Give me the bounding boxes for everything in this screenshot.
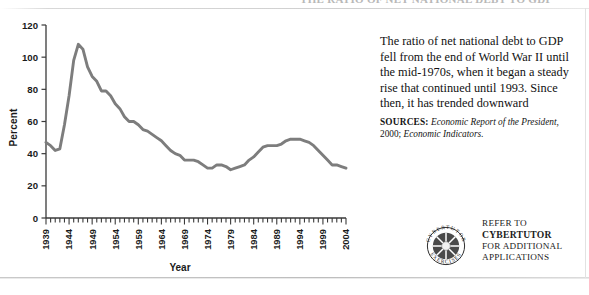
y-tick-label: 80 [27,84,38,95]
y-tick-label: 120 [22,20,38,31]
y-axis-label: Percent [8,93,19,163]
x-tick-group [46,218,346,225]
badge-line-1: REFER TO [482,218,586,229]
y-tick-label: 100 [22,52,38,63]
x-tick-label: 1989 [271,229,282,250]
x-ticklabel-group: 1939194419491954195919641969197419791984… [40,228,351,250]
cybertutor-logo-icon: CYBERTUTOR EXERCISES [420,220,472,272]
badge-line-2: CYBERTUTOR [482,229,586,240]
sources-work-2: Economic Indicators. [404,129,484,139]
sources-year: 2000; [380,129,401,139]
x-tick-label: 1964 [156,228,167,250]
series-line-net-debt [46,44,346,169]
bottom-divider-shadow [0,278,589,279]
sources-label: SOURCES: [380,117,429,127]
y-tick-label: 0 [33,213,38,224]
chart-axes [46,25,346,218]
x-tick-label: 1994 [294,228,305,250]
caption-text: The ratio of net national debt to GDP fe… [380,34,580,112]
chart-canvas: 020406080100120 193919441949195419591964… [0,14,375,279]
cybertutor-badge[interactable]: CYBERTUTOR EXERCISES REFER TO CYBERTUTOR… [420,218,585,278]
y-tick-label: 40 [27,148,38,159]
sources-work-1: Economic Report of the President, [431,117,559,127]
debt-gdp-line-chart: 020406080100120 193919441949195419591964… [0,14,375,279]
x-tick-label: 1949 [87,229,98,250]
y-tick-label: 60 [27,116,38,127]
x-axis-label: Year [120,262,240,273]
x-tick-label: 1974 [202,228,213,250]
x-tick-label: 2004 [340,228,351,250]
badge-line-4: APPLICATIONS [482,252,586,263]
right-edge-divider [585,8,586,278]
cybertutor-badge-text: REFER TO CYBERTUTOR FOR ADDITIONAL APPLI… [482,218,586,264]
running-header-text: THE RATIO OF NET NATIONAL DEBT TO GDP [300,0,552,5]
sources-note: SOURCES: Economic Report of the Presiden… [380,117,580,140]
y-tick-group: 020406080100120 [22,20,46,224]
x-tick-label: 1969 [179,229,190,250]
x-tick-label: 1979 [225,229,236,250]
page-root: THE RATIO OF NET NATIONAL DEBT TO GDP 02… [0,0,589,295]
x-tick-label: 1954 [110,228,121,250]
x-tick-label: 1944 [63,228,74,250]
badge-line-3: FOR ADDITIONAL [482,241,586,252]
x-tick-label: 1999 [317,229,328,250]
x-tick-label: 1959 [133,229,144,250]
x-tick-label: 1984 [248,228,259,250]
x-tick-label: 1939 [40,229,51,250]
y-tick-label: 20 [27,180,38,191]
top-divider [0,8,589,9]
